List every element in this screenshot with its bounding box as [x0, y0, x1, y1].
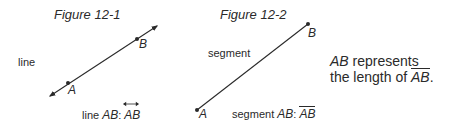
figure-1-point-b-label: B [139, 37, 147, 51]
figure-1-point-a-label: A [68, 83, 76, 97]
caption-sep: : [118, 109, 121, 121]
double-arrow-icon [123, 101, 139, 107]
line-notation: AB [124, 108, 140, 122]
segment-notation: AB [411, 69, 430, 85]
segment-ab [197, 24, 308, 110]
caption-name: AB [277, 107, 293, 121]
figure-2-point-b-label: B [308, 26, 316, 40]
note-line-2: the length of AB. [330, 69, 434, 85]
figure-2-side-label: segment [208, 47, 250, 59]
caption-prefix: line [82, 109, 99, 121]
figure-2-caption: segment AB: AB [232, 107, 315, 121]
figure-2-point-a-label: A [199, 107, 207, 121]
caption-name: AB [102, 108, 118, 122]
length-note: AB represents the length of AB. [330, 53, 434, 85]
figure-1-side-label: line [18, 56, 35, 68]
caption-sep: : [293, 108, 296, 120]
note-line-1: AB represents [330, 53, 434, 69]
segment-notation: AB [299, 107, 315, 121]
overline-bar [299, 106, 315, 107]
caption-prefix: segment [232, 108, 274, 120]
figure-1-title: Figure 12-1 [54, 7, 120, 22]
figure-1-caption: line AB: AB [82, 108, 140, 122]
figure-2-title: Figure 12-2 [220, 7, 286, 22]
